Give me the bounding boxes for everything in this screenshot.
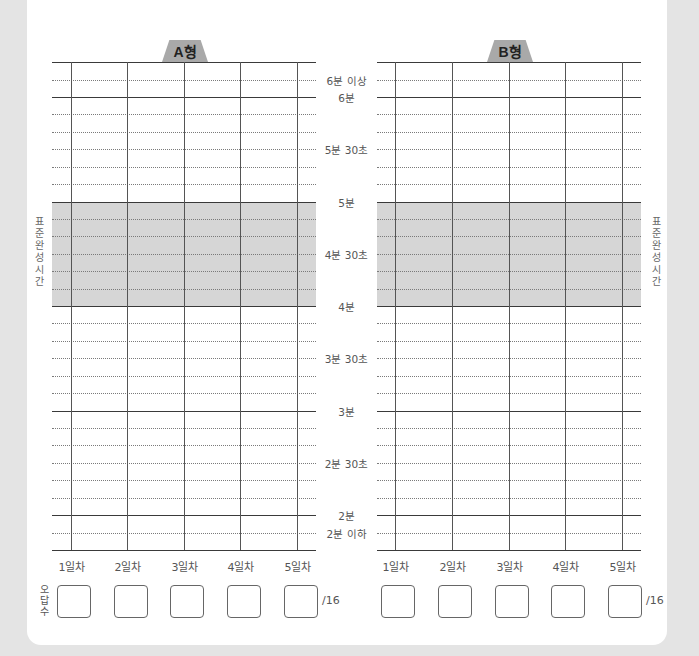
day-column-line-5[interactable]	[297, 62, 298, 550]
day-label-b-5: 5일차	[598, 558, 648, 574]
chart-b-grid	[377, 62, 641, 550]
day-label-b-4: 4일차	[541, 558, 591, 574]
day-label-b-1: 1일차	[371, 558, 421, 574]
grid-bottom-line	[52, 550, 316, 551]
y-label-3min: 3분	[316, 404, 377, 419]
day-column-line-3[interactable]	[509, 62, 510, 550]
day-label-a-5: 5일차	[273, 558, 323, 574]
wrong-answer-denominator-b: /16	[646, 594, 664, 607]
tab-type-a: A형	[162, 40, 208, 62]
y-label-5min: 5분	[316, 195, 377, 210]
day-column-line-2[interactable]	[452, 62, 453, 550]
day-label-a-2: 2일차	[103, 558, 153, 574]
y-label-6min: 6분	[316, 90, 377, 105]
standard-time-label-right: 표준완성시간	[650, 216, 662, 288]
day-column-line-1[interactable]	[395, 62, 396, 550]
day-label-a-4: 4일차	[216, 558, 266, 574]
y-label-3min30: 3분 30초	[316, 351, 377, 366]
day-column-line-4[interactable]	[565, 62, 566, 550]
y-label-6min-over: 6분 이상	[316, 73, 377, 88]
wrong-answer-box-a-4[interactable]	[227, 585, 261, 618]
day-column-line-1[interactable]	[71, 62, 72, 550]
day-column-line-2[interactable]	[127, 62, 128, 550]
day-label-b-2: 2일차	[428, 558, 478, 574]
wrong-answer-box-a-2[interactable]	[114, 585, 148, 618]
wrong-answer-box-a-3[interactable]	[170, 585, 204, 618]
day-label-b-3: 3일차	[485, 558, 535, 574]
y-label-5min30: 5분 30초	[316, 142, 377, 157]
y-label-2min: 2분	[316, 508, 377, 523]
y-label-4min: 4분	[316, 299, 377, 314]
wrong-answers-label: 오답수	[38, 584, 50, 617]
wrong-answer-box-b-2[interactable]	[438, 585, 472, 618]
wrong-answer-box-a-1[interactable]	[57, 585, 91, 618]
day-column-line-4[interactable]	[240, 62, 241, 550]
standard-time-label-left: 표준완성시간	[33, 216, 45, 288]
y-label-2min-under: 2분 이하	[316, 526, 377, 541]
day-label-a-3: 3일차	[160, 558, 210, 574]
wrong-answer-box-a-5[interactable]	[284, 585, 318, 618]
tab-type-b: B형	[487, 40, 533, 62]
grid-bottom-line	[377, 550, 641, 551]
wrong-answer-box-b-4[interactable]	[551, 585, 585, 618]
y-label-2min30: 2분 30초	[316, 456, 377, 471]
wrong-answer-denominator-a: /16	[322, 594, 340, 607]
wrong-answer-box-b-3[interactable]	[495, 585, 529, 618]
y-label-4min30: 4분 30초	[316, 247, 377, 262]
day-column-line-3[interactable]	[184, 62, 185, 550]
day-column-line-5[interactable]	[622, 62, 623, 550]
wrong-answer-box-b-5[interactable]	[608, 585, 642, 618]
chart-a-grid	[52, 62, 316, 550]
day-label-a-1: 1일차	[47, 558, 97, 574]
wrong-answer-box-b-1[interactable]	[381, 585, 415, 618]
